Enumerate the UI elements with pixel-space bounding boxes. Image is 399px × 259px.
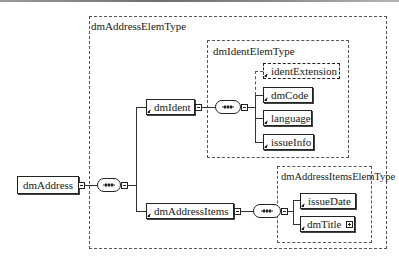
element-label: issueDate (308, 195, 351, 207)
collapse-icon[interactable] (195, 104, 202, 111)
connector (255, 118, 263, 119)
element-label: dmAddressItems (154, 205, 229, 217)
connector (136, 107, 137, 211)
element-label: dmAddress (23, 179, 73, 191)
element-label: language (271, 112, 311, 124)
collapse-icon[interactable] (241, 104, 248, 111)
reference-arrow-icon (148, 108, 153, 113)
element-language[interactable]: language (263, 110, 312, 126)
collapse-icon[interactable] (78, 182, 85, 189)
connector (293, 200, 300, 201)
element-label: issueInfo (271, 136, 311, 148)
type-label-dmIdentElemType: dmIdentElemType (213, 45, 295, 57)
element-label: identExtension (271, 65, 337, 77)
reference-arrow-icon (302, 225, 307, 230)
element-label: dmCode (271, 89, 308, 101)
connector (241, 211, 253, 212)
element-dmIdent[interactable]: dmIdent (146, 99, 195, 115)
element-dmAddressItems[interactable]: dmAddressItems (146, 203, 234, 219)
sequence-icon (261, 211, 273, 212)
sequence-compositor[interactable] (97, 178, 121, 192)
connector (136, 107, 146, 108)
connector (293, 200, 294, 224)
element-identExtension[interactable]: identExtension (263, 63, 340, 79)
element-dmCode[interactable]: dmCode (263, 87, 313, 103)
expand-icon[interactable] (346, 221, 353, 228)
connector (255, 95, 263, 96)
reference-arrow-icon (265, 143, 270, 148)
collapse-icon[interactable] (121, 182, 128, 189)
collapse-icon[interactable] (281, 208, 288, 215)
connector (248, 107, 255, 108)
sequence-icon (103, 185, 115, 186)
reference-arrow-icon (265, 72, 270, 77)
reference-arrow-icon (302, 202, 307, 207)
element-label: dmIdent (154, 101, 191, 113)
type-label-dmAddressElemType: dmAddressElemType (91, 20, 186, 32)
element-issueDate[interactable]: issueDate (300, 193, 356, 209)
sequence-compositor[interactable] (253, 204, 281, 218)
type-label-dmAddressItemsElemType: dmAddressItemsElemType (281, 171, 395, 183)
connector (85, 185, 97, 186)
reference-arrow-icon (265, 96, 270, 101)
element-dmAddress[interactable]: dmAddress (17, 176, 79, 194)
top-border (0, 0, 399, 2)
element-label: dmTitle (307, 218, 341, 230)
connector (128, 185, 136, 186)
connector (293, 224, 300, 225)
connector (255, 142, 263, 143)
connector (202, 107, 215, 108)
optional-connector (255, 71, 256, 95)
connector (136, 211, 146, 212)
optional-connector (255, 71, 263, 72)
element-issueInfo[interactable]: issueInfo (263, 134, 314, 150)
collapse-icon[interactable] (234, 208, 241, 215)
reference-arrow-icon (148, 212, 153, 217)
sequence-icon (222, 107, 234, 108)
sequence-compositor[interactable] (215, 100, 241, 114)
reference-arrow-icon (265, 119, 270, 124)
